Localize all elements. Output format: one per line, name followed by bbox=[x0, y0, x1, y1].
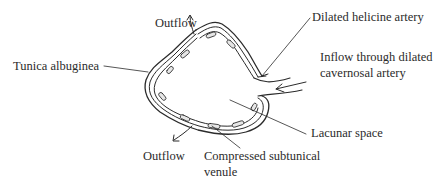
diagram-canvas: Outflow Dilated helicine artery Tunica a… bbox=[0, 0, 442, 183]
label-inflow-line1: Inflow through dilated bbox=[320, 50, 432, 65]
label-lacunar-space: Lacunar space bbox=[311, 126, 383, 141]
label-compressed-line1: Compressed subtunical bbox=[204, 149, 320, 164]
leader-tunica bbox=[104, 66, 148, 72]
leader-helicine bbox=[262, 18, 310, 76]
label-dilated-helicine-artery: Dilated helicine artery bbox=[312, 10, 424, 25]
label-tunica-albuginea: Tunica albuginea bbox=[13, 59, 99, 74]
outflow-bottom-arrow bbox=[174, 126, 192, 140]
label-compressed-line2: venule bbox=[204, 165, 237, 180]
label-inflow-line2: cavernosal artery bbox=[320, 66, 406, 81]
label-outflow-top: Outflow bbox=[155, 16, 197, 31]
outer-wall bbox=[145, 30, 269, 134]
label-outflow-bottom: Outflow bbox=[143, 149, 185, 164]
